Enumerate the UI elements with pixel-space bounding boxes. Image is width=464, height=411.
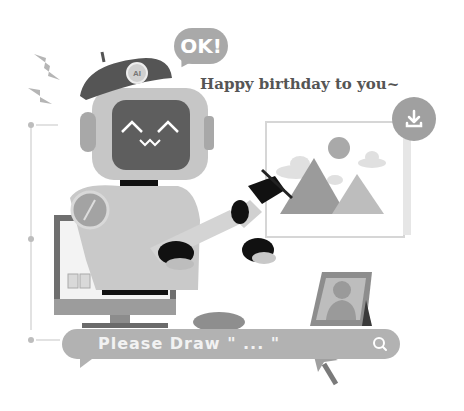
lightning-icon — [28, 54, 60, 104]
drawing-canvas-frame — [266, 122, 411, 237]
photo-frame — [310, 272, 372, 326]
download-button[interactable] — [392, 97, 436, 141]
search-icon[interactable] — [372, 336, 388, 352]
beret-badge: AI — [126, 62, 148, 84]
speech-bubble-ok: OK! — [174, 28, 228, 64]
greeting-text: Happy birthday to you~ — [200, 75, 399, 93]
download-icon — [403, 108, 425, 130]
prompt-placeholder-text: Please Draw " ... " — [98, 334, 280, 353]
